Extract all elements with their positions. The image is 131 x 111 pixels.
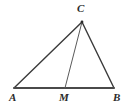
segment-ac: [14, 22, 82, 88]
vertex-point-c: [81, 21, 84, 24]
segment-cb: [82, 22, 114, 88]
geometry-figure: A M B C: [0, 0, 131, 111]
vertex-label-a: A: [9, 92, 16, 103]
segment-cm-cevian: [65, 22, 82, 88]
vertex-label-b: B: [113, 92, 120, 103]
vertex-label-c: C: [77, 3, 84, 14]
vertex-label-m: M: [59, 92, 69, 103]
